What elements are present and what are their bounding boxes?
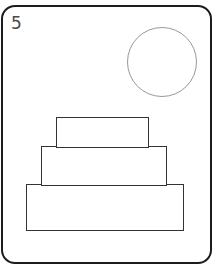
card-number: 5	[11, 15, 22, 32]
stack-rect-middle	[41, 146, 167, 186]
stack-rect-bottom	[26, 184, 184, 231]
stack-rect-top	[56, 117, 149, 148]
sun-circle-shape	[127, 27, 197, 97]
